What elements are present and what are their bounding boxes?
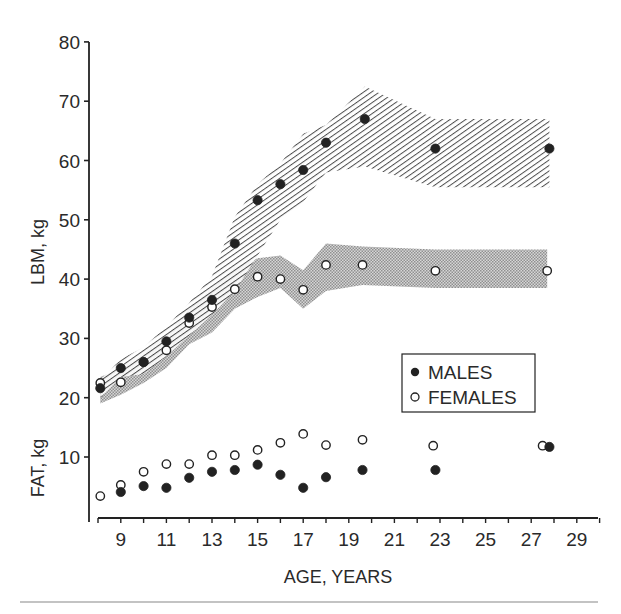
male-data-point xyxy=(431,465,440,474)
male-data-point xyxy=(207,295,216,304)
male-data-point xyxy=(230,239,239,248)
x-tick-label: 23 xyxy=(429,529,450,550)
legend-females-label: FEMALES xyxy=(428,387,517,408)
female-data-point xyxy=(185,460,193,468)
y-tick-label: 30 xyxy=(59,328,80,349)
male-data-point xyxy=(321,138,330,147)
x-tick-label: 19 xyxy=(338,529,359,550)
female-data-point xyxy=(117,378,125,386)
y-axis-title-fat: FAT, kg xyxy=(28,439,48,498)
female-data-point xyxy=(358,436,366,444)
x-tick-label: 21 xyxy=(384,529,405,550)
male-data-point xyxy=(162,337,171,346)
male-data-point xyxy=(276,180,285,189)
x-tick-label: 25 xyxy=(475,529,496,550)
female-data-point xyxy=(162,346,170,354)
female-data-point xyxy=(299,430,307,438)
female-data-point xyxy=(322,441,330,449)
x-tick-label: 9 xyxy=(116,529,127,550)
male-data-point xyxy=(139,358,148,367)
y-tick-label: 80 xyxy=(59,32,80,53)
male-data-point xyxy=(431,144,440,153)
female-data-point xyxy=(253,446,261,454)
female-data-point xyxy=(276,439,284,447)
x-tick-label: 17 xyxy=(293,529,314,550)
y-tick-label: 40 xyxy=(59,269,80,290)
legend-females-marker-icon xyxy=(411,393,419,401)
x-axis-title: AGE, YEARS xyxy=(284,567,393,587)
y-tick-label: 70 xyxy=(59,91,80,112)
legend-males-label: MALES xyxy=(428,362,492,383)
y-tick-label: 10 xyxy=(59,447,80,468)
male-data-point xyxy=(253,196,262,205)
female-data-point xyxy=(96,492,104,500)
female-data-point xyxy=(208,451,216,459)
male-data-point xyxy=(185,313,194,322)
y-axis-title-lbm: LBM, kg xyxy=(28,219,48,285)
male-data-point xyxy=(116,364,125,373)
x-tick-label: 11 xyxy=(157,529,177,550)
legend-males-marker-icon xyxy=(411,368,419,376)
female-data-point xyxy=(162,460,170,468)
female-data-point xyxy=(429,442,437,450)
male-data-point xyxy=(207,467,216,476)
male-data-point xyxy=(162,483,171,492)
female-data-point xyxy=(231,285,239,293)
x-tick-label: 15 xyxy=(247,529,268,550)
female-data-point xyxy=(299,286,307,294)
male-data-point xyxy=(230,465,239,474)
female-data-point xyxy=(431,267,439,275)
male-data-point xyxy=(185,473,194,482)
male-data-point xyxy=(299,165,308,174)
male-data-point xyxy=(253,460,262,469)
y-tick-label: 60 xyxy=(59,151,80,172)
y-tick-label: 20 xyxy=(59,388,80,409)
female-data-point xyxy=(543,267,551,275)
male-data-point xyxy=(358,465,367,474)
male-data-point xyxy=(299,483,308,492)
male-data-point xyxy=(321,473,330,482)
legend: MALES FEMALES xyxy=(402,354,535,412)
female-data-point xyxy=(322,261,330,269)
female-data-point xyxy=(139,468,147,476)
x-tick-label: 27 xyxy=(521,529,542,550)
female-data-point xyxy=(276,275,284,283)
male-data-point xyxy=(545,144,554,153)
male-data-point xyxy=(276,470,285,479)
female-data-point xyxy=(253,273,261,281)
male-data-point xyxy=(96,384,105,393)
female-data-point xyxy=(358,261,366,269)
male-data-point xyxy=(545,442,554,451)
male-data-point xyxy=(139,482,148,491)
male-data-point xyxy=(116,487,125,496)
chart-canvas: 1020304050607080911131517192123252729 AG… xyxy=(0,0,621,614)
x-tick-label: 29 xyxy=(566,529,587,550)
x-tick-label: 13 xyxy=(201,529,222,550)
male-data-point xyxy=(360,114,369,123)
female-data-point xyxy=(231,451,239,459)
y-tick-label: 50 xyxy=(59,210,80,231)
